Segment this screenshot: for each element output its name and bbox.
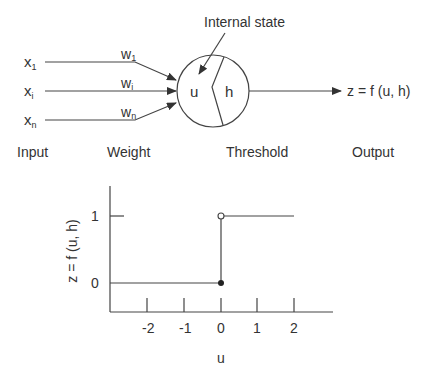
input-x1: x1 <box>24 53 37 72</box>
x-tick-label: 1 <box>253 320 261 336</box>
filled-point <box>218 280 224 286</box>
svg-text:wn: wn <box>120 104 136 121</box>
x-tick-label: 0 <box>217 320 225 336</box>
y-tick-label-1: 1 <box>91 208 99 224</box>
internal-var-u: u <box>190 83 198 100</box>
input-xn: xn <box>24 111 37 130</box>
weight-wi: wi <box>120 75 133 92</box>
y-axis-label: z = f (u, h) <box>64 219 80 282</box>
x-tick-label: 2 <box>290 320 298 336</box>
svg-text:xn: xn <box>24 111 37 130</box>
x-tick-label: -1 <box>179 320 192 336</box>
weight-line-n <box>45 103 176 120</box>
weight-line-1 <box>45 62 176 80</box>
stage-label-threshold: Threshold <box>226 144 288 160</box>
stage-label-output: Output <box>352 144 394 160</box>
svg-text:x1: x1 <box>24 53 37 72</box>
open-point <box>218 213 224 219</box>
internal-state-arrow <box>199 33 225 74</box>
svg-text:w1: w1 <box>120 46 136 63</box>
step-function-chart: 1 0 -2 -1 0 1 2 u z = f (u, h) <box>64 186 333 366</box>
stage-label-input: Input <box>17 144 48 160</box>
weight-wn: wn <box>120 104 136 121</box>
y-tick-label-0: 0 <box>91 275 99 291</box>
weight-w1: w1 <box>120 46 136 63</box>
x-axis-label: u <box>217 350 225 366</box>
threshold-var-h: h <box>225 83 233 100</box>
x-tick-label: -2 <box>142 320 155 336</box>
neuron-diagram: Internal state x1 xi xn w1 wi wn u h z =… <box>0 0 423 382</box>
threshold-divider <box>212 57 224 125</box>
internal-state-label: Internal state <box>204 14 285 30</box>
svg-text:xi: xi <box>24 82 34 101</box>
stage-label-weight: Weight <box>107 144 150 160</box>
output-formula: z = f (u, h) <box>347 83 410 99</box>
input-xi: xi <box>24 82 34 101</box>
svg-text:wi: wi <box>120 75 133 92</box>
